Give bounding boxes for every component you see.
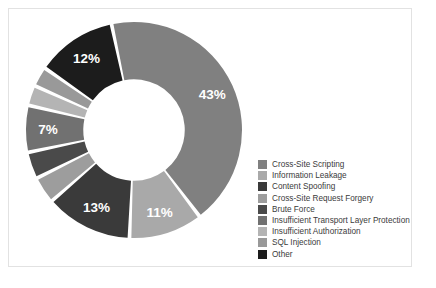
legend-color-swatch [258,238,267,247]
legend-item[interactable]: Content Spoofing [258,181,418,192]
legend-item-label: Cross-Site Scripting [272,159,344,170]
legend-item[interactable]: Information Leakage [258,170,418,181]
legend-item[interactable]: Insufficient Transport Layer Protection [258,215,418,226]
donut-chart-figure: 43%11%13%7%12% Cross-Site ScriptingInfor… [0,0,436,288]
chart-legend: Cross-Site ScriptingInformation LeakageC… [258,159,418,260]
slice-percentage-label: 13% [83,200,110,215]
slice-percentage-label: 43% [199,87,226,102]
donut-slices [26,22,242,238]
legend-item[interactable]: SQL Injection [258,237,418,248]
legend-color-swatch [258,250,267,259]
legend-color-swatch [258,194,267,203]
legend-item[interactable]: Cross-Site Scripting [258,159,418,170]
legend-item[interactable]: Cross-Site Request Forgery [258,193,418,204]
legend-item-label: Content Spoofing [272,181,335,192]
legend-item[interactable]: Other [258,249,418,260]
legend-item-label: Other [272,249,292,260]
legend-color-swatch [258,227,267,236]
legend-item-label: Insufficient Authorization [272,226,361,237]
legend-item-label: Brute Force [272,204,315,215]
legend-item-label: Insufficient Transport Layer Protection [272,215,410,226]
legend-item-label: Information Leakage [272,170,347,181]
legend-color-swatch [258,160,267,169]
legend-item-label: SQL Injection [272,237,321,248]
legend-color-swatch [258,182,267,191]
slice-percentage-label: 7% [38,122,58,137]
slice-percentage-label: 12% [73,51,100,66]
legend-item-label: Cross-Site Request Forgery [272,193,373,204]
slice-percentage-label: 11% [147,205,173,220]
legend-item[interactable]: Brute Force [258,204,418,215]
legend-color-swatch [258,171,267,180]
legend-color-swatch [258,216,267,225]
legend-color-swatch [258,205,267,214]
donut-plot-area: 43%11%13%7%12% [18,8,250,258]
donut-svg: 43%11%13%7%12% [18,8,250,258]
legend-item[interactable]: Insufficient Authorization [258,226,418,237]
